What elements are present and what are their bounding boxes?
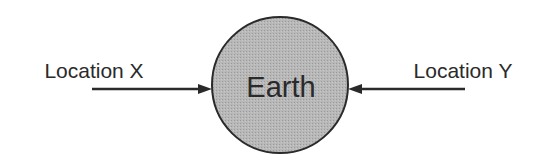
location-x-node: Location X: [44, 59, 212, 94]
earth-node: Earth: [212, 17, 348, 153]
location-y-label: Location Y: [414, 59, 513, 82]
diagram-canvas: Earth Location X Location Y: [0, 0, 557, 162]
arrow-left-icon: [348, 84, 465, 94]
location-x-label: Location X: [44, 59, 143, 82]
location-y-node: Location Y: [348, 59, 512, 94]
earth-label: Earth: [246, 71, 315, 103]
arrow-right-icon: [92, 84, 212, 94]
